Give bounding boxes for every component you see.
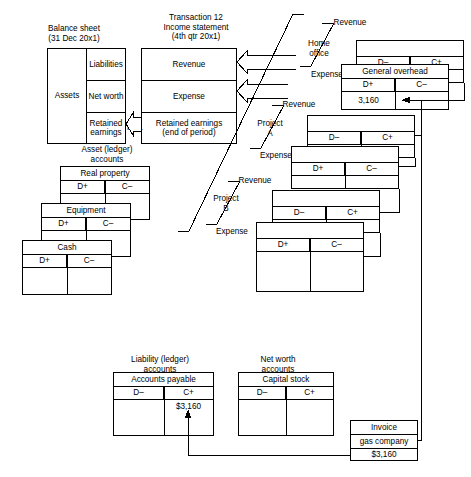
- project-b-revenue-debit-text: D–: [294, 208, 304, 217]
- expense-connector-label: Expense: [240, 88, 288, 98]
- invoice-line1: Invoice: [351, 421, 417, 434]
- balance-sheet-retained-earnings-cell: Retained earnings: [87, 113, 125, 143]
- project-a-expense-debit-text: D+: [313, 164, 324, 173]
- project-b-expense-text: Expense: [216, 227, 248, 236]
- income-statement-title-line2: Income statement: [141, 23, 251, 33]
- home-office-name-line2: office: [299, 49, 339, 59]
- project-b-revenue-routing: [380, 189, 399, 212]
- income-statement-retained-earnings-cell: Retained earnings (end of period): [142, 113, 236, 143]
- segment-home-office-revenue-label: Revenue: [326, 18, 374, 28]
- segment-project-b-revenue-label: Revenue: [231, 176, 279, 186]
- re-label-text: R.E.: [127, 123, 143, 132]
- accounts-payable-center-rule: [164, 387, 165, 436]
- equipment-debit-header: D+: [42, 218, 86, 230]
- is-revenue-label: Revenue: [173, 60, 206, 69]
- general-overhead-debit-text: D+: [363, 80, 374, 89]
- asset-accounts-title-line2: accounts: [47, 155, 167, 165]
- real-property-debit-header: D+: [61, 181, 105, 193]
- liabilities-label: Liabilities: [89, 60, 123, 69]
- general-overhead-center-rule: [395, 79, 396, 110]
- project-b-revenue-credit-text: C+: [347, 208, 358, 217]
- equipment-title: Equipment: [42, 204, 130, 217]
- accounts-payable-title-text: Accounts payable: [131, 375, 196, 384]
- general-overhead-title: General overhead: [342, 65, 448, 78]
- invoice-line2-text: gas company: [360, 437, 409, 446]
- balance-sheet-liabilities-cell: Liabilities: [87, 49, 125, 80]
- project-a-revenue-debit-header: D–: [308, 132, 361, 144]
- segment-project-b-name: Project B: [206, 194, 246, 213]
- is-expense-label: Expense: [173, 92, 205, 101]
- accounting-flow-diagram: Balance sheet (31 Dec 20x1) Transaction …: [0, 0, 471, 477]
- invoice-line1-text: Invoice: [371, 423, 397, 432]
- accounts-payable-debit-text: D–: [133, 388, 143, 397]
- real-property-title-text: Real property: [80, 169, 129, 178]
- home-office-name-line1: Home: [299, 39, 339, 49]
- real-property-title: Real property: [61, 167, 149, 180]
- assets-label: Assets: [55, 91, 80, 100]
- accounts-payable-debit-header: D–: [114, 387, 164, 399]
- general-overhead-credit-text: C–: [416, 80, 426, 89]
- project-b-revenue-debit-header: D–: [273, 207, 326, 219]
- bs-retained-earnings-line1: Retained: [90, 119, 123, 128]
- project-a-expense-credit-text: C–: [366, 164, 376, 173]
- project-b-expense-center-rule: [310, 239, 311, 292]
- segment-project-b-expense-label: Expense: [208, 227, 256, 237]
- segment-home-office-name: Home office: [299, 39, 339, 58]
- project-b-expense-routing: [364, 233, 380, 256]
- general-overhead-debit-header: D+: [342, 79, 395, 91]
- project-a-expense-credit-header: C–: [345, 163, 398, 175]
- cash-center-rule: [67, 255, 68, 295]
- cash-debit-header: D+: [23, 255, 67, 267]
- revenue-connector-label: Revenue: [240, 59, 288, 69]
- general-overhead-credit-header: C–: [395, 79, 448, 91]
- general-overhead-debit-value-text: 3,160: [358, 96, 379, 105]
- networth-accounts-title-line1: Net worth: [228, 355, 328, 365]
- capital-stock-credit-text: C+: [304, 388, 315, 397]
- project-b-expense-debit-text: D+: [278, 240, 289, 249]
- is-retained-earnings-line2: (end of period): [162, 128, 215, 137]
- accounts-payable-title: Accounts payable: [114, 373, 213, 386]
- project-b-name-line2: B: [206, 204, 246, 214]
- cash-title-text: Cash: [57, 243, 76, 252]
- capital-stock-center-rule: [286, 387, 287, 436]
- home-office-expense-text: Expense: [311, 70, 343, 79]
- balance-sheet-assets-cell: Assets: [48, 49, 86, 143]
- cash-title: Cash: [23, 241, 111, 254]
- project-a-revenue-credit-header: C+: [361, 132, 414, 144]
- equipment-title-text: Equipment: [66, 206, 105, 215]
- project-a-expense-debit-header: D+: [292, 163, 345, 175]
- balance-sheet-networth-cell: Net worth: [87, 81, 125, 112]
- project-a-expense-routing: [399, 158, 415, 166]
- general-overhead-value-rule: [341, 109, 449, 110]
- project-b-expense-debit-header: D+: [257, 239, 310, 251]
- cash-credit-text: C–: [84, 256, 94, 265]
- income-statement-title: Transaction 12 Income statement (4th qtr…: [141, 13, 251, 42]
- is-retained-earnings-line1: Retained earnings: [156, 119, 222, 128]
- income-statement-title-line3: (4th qtr 20x1): [141, 32, 251, 42]
- balance-sheet-title-line2: (31 Dec 20x1): [34, 34, 114, 44]
- accounts-payable-credit-value-text: $3,160: [176, 402, 201, 411]
- real-property-credit-header: C–: [105, 181, 149, 193]
- capital-stock-title-text: Capital stock: [263, 375, 310, 384]
- expense-connector-text: Expense: [248, 88, 280, 97]
- capital-stock-debit-header: D–: [239, 387, 286, 399]
- equipment-credit-header: C–: [86, 218, 130, 230]
- revenue-connector-text: Revenue: [248, 59, 281, 68]
- real-property-credit-text: C–: [122, 182, 132, 191]
- re-connector-label: R.E.: [125, 123, 145, 133]
- accounts-payable-credit-text: C+: [183, 388, 194, 397]
- accounts-payable-credit-value: $3,160: [164, 400, 213, 414]
- project-a-revenue-credit-text: C+: [382, 133, 393, 142]
- balance-sheet-title: Balance sheet (31 Dec 20x1): [34, 24, 114, 43]
- capital-stock-credit-header: C+: [286, 387, 333, 399]
- home-office-revenue-text: Revenue: [334, 18, 367, 27]
- invoice-line3-text: $3,160: [371, 450, 396, 459]
- project-a-revenue-text: Revenue: [283, 100, 316, 109]
- income-statement-title-line1: Transaction 12: [141, 13, 251, 23]
- net-worth-label: Net worth: [88, 92, 123, 101]
- liability-accounts-title-line1: Liability (ledger): [105, 355, 215, 365]
- project-b-expense-credit-text: C–: [331, 240, 341, 249]
- general-overhead-debit-value: 3,160: [342, 92, 395, 109]
- project-b-revenue-text: Revenue: [239, 176, 272, 185]
- equipment-credit-text: C–: [103, 219, 113, 228]
